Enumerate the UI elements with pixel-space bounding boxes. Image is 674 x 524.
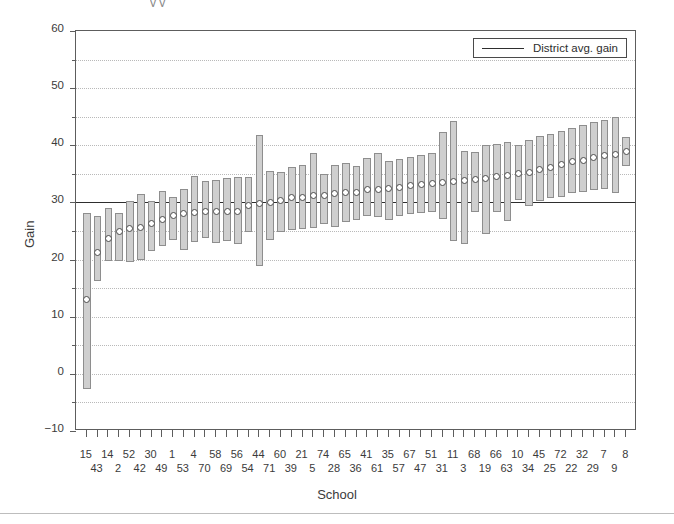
x-axis-tick	[215, 430, 216, 437]
x-axis-tick-label: 5	[300, 462, 324, 474]
point-estimate-marker	[148, 220, 155, 227]
point-estimate-marker	[321, 192, 328, 199]
point-estimate-marker	[224, 208, 231, 215]
y-axis-tick-minor	[72, 288, 76, 289]
x-axis-tick-label: 10	[505, 448, 529, 460]
x-axis-tick-label: 68	[462, 448, 486, 460]
x-axis-tick	[161, 430, 162, 437]
point-estimate-marker	[116, 228, 123, 235]
x-axis-tick-label: 69	[214, 462, 238, 474]
x-axis-tick-label: 21	[290, 448, 314, 460]
x-axis-tick	[517, 430, 518, 437]
y-axis-tick-label: 20	[30, 251, 64, 263]
y-axis-tick	[70, 431, 76, 432]
x-axis-tick-label: 70	[192, 462, 216, 474]
x-axis-tick-label: 3	[451, 462, 475, 474]
x-axis-tick	[604, 430, 605, 437]
x-axis-tick	[291, 430, 292, 437]
point-estimate-marker	[526, 169, 533, 176]
interval-bar	[461, 151, 469, 244]
x-axis-tick-label: 57	[387, 462, 411, 474]
x-axis-tick-label: 39	[279, 462, 303, 474]
point-estimate-marker	[547, 164, 554, 171]
x-axis-tick	[409, 430, 410, 437]
point-estimate-marker	[569, 158, 576, 165]
point-estimate-marker	[472, 176, 479, 183]
interval-bar	[504, 142, 512, 221]
y-axis-tick-label: 10	[30, 308, 64, 320]
x-axis-tick-label: 41	[354, 448, 378, 460]
x-axis-tick	[377, 430, 378, 437]
point-estimate-marker	[94, 249, 101, 256]
x-axis-tick-label: 56	[225, 448, 249, 460]
x-axis-tick-label: 9	[602, 462, 626, 474]
y-axis-tick	[70, 88, 76, 89]
x-axis-tick-label: 1	[160, 448, 184, 460]
x-axis-tick	[323, 430, 324, 437]
y-axis-tick-minor	[72, 345, 76, 346]
x-axis-tick-label: 42	[128, 462, 152, 474]
x-axis-tick-label: 36	[344, 462, 368, 474]
interval-bar	[320, 174, 328, 224]
x-axis-tick	[248, 430, 249, 437]
x-axis-tick	[118, 430, 119, 437]
x-axis-tick-label: 22	[559, 462, 583, 474]
point-estimate-marker	[159, 216, 166, 223]
plot-area: District avg. gain	[75, 30, 636, 430]
x-axis-tick-label: 65	[333, 448, 357, 460]
x-axis-tick	[280, 430, 281, 437]
x-axis-tick	[258, 430, 259, 437]
x-axis-tick-label: 58	[203, 448, 227, 460]
y-axis-tick-minor	[72, 60, 76, 61]
point-estimate-marker	[170, 212, 177, 219]
x-axis-tick	[204, 430, 205, 437]
gridline-minor	[76, 402, 635, 403]
cropped-caption-fragment: y y	[150, 0, 570, 7]
x-axis-tick	[625, 430, 626, 437]
y-axis-tick-minor	[72, 402, 76, 403]
x-axis-title: School	[0, 487, 674, 502]
x-axis-tick	[496, 430, 497, 437]
x-axis-tick-label: 49	[149, 462, 173, 474]
interval-bar	[180, 189, 188, 251]
x-axis-tick-label: 44	[246, 448, 270, 460]
x-axis-tick	[442, 430, 443, 437]
point-estimate-marker	[310, 192, 317, 199]
y-axis-title: Gain	[22, 221, 37, 248]
x-axis-tick	[302, 430, 303, 437]
y-axis-tick-label: 50	[30, 79, 64, 91]
x-axis-tick	[356, 430, 357, 437]
horizontal-line-icon	[482, 48, 524, 49]
x-axis-tick	[97, 430, 98, 437]
x-axis-tick	[345, 430, 346, 437]
x-axis-tick	[399, 430, 400, 437]
interval-bar	[482, 145, 490, 234]
x-axis-tick-label: 67	[397, 448, 421, 460]
point-estimate-marker	[375, 186, 382, 193]
x-axis-tick-label: 53	[171, 462, 195, 474]
x-axis-tick-label: 72	[548, 448, 572, 460]
gridline	[76, 374, 635, 375]
figure-canvas: y y Gain District avg. gain −10010203040…	[0, 0, 674, 524]
x-axis-tick-label: 47	[408, 462, 432, 474]
y-axis-tick-label: 30	[30, 193, 64, 205]
x-axis-tick	[420, 430, 421, 437]
x-axis-tick	[237, 430, 238, 437]
x-axis-tick	[86, 430, 87, 437]
point-estimate-marker	[580, 157, 587, 164]
x-axis-tick	[269, 430, 270, 437]
x-axis-tick-label: 54	[236, 462, 260, 474]
point-estimate-marker	[418, 181, 425, 188]
x-axis-tick-label: 61	[365, 462, 389, 474]
y-axis-tick-minor	[72, 117, 76, 118]
x-axis-tick	[431, 430, 432, 437]
gridline-minor	[76, 117, 635, 118]
point-estimate-marker	[429, 180, 436, 187]
x-axis-tick	[183, 430, 184, 437]
point-estimate-marker	[256, 200, 263, 207]
x-axis-tick	[388, 430, 389, 437]
x-axis-tick-label: 11	[441, 448, 465, 460]
x-axis-tick	[528, 430, 529, 437]
point-estimate-marker	[267, 199, 274, 206]
x-axis-tick-label: 45	[527, 448, 551, 460]
